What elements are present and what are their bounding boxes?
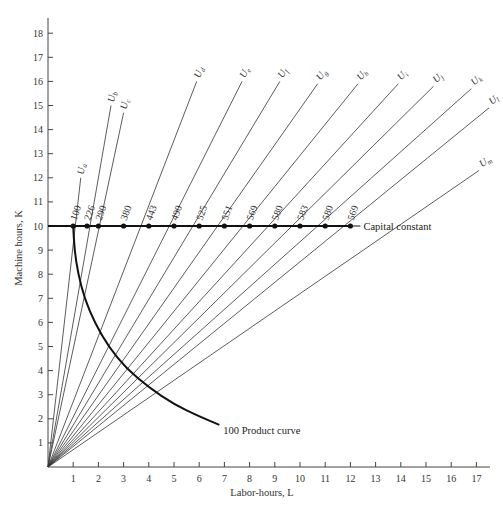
ray-line [48, 106, 111, 468]
y-tick-label: 17 [33, 52, 43, 63]
x-tick-label: 11 [320, 473, 330, 484]
x-tick-label: 3 [121, 473, 126, 484]
ray-line [48, 81, 197, 467]
x-tick-label: 6 [197, 473, 202, 484]
x-tick-label: 7 [222, 473, 227, 484]
ray-label: Uj [430, 70, 446, 86]
ray-line [48, 81, 280, 467]
output-label: 569 [345, 204, 360, 222]
x-tick-label: 2 [96, 473, 101, 484]
capital-constant-label: Capital constant [363, 221, 431, 232]
capital-point [272, 223, 277, 228]
y-tick-label: 15 [33, 100, 43, 111]
y-tick-label: 14 [33, 124, 43, 135]
ray-line [48, 89, 471, 467]
output-label: 380 [118, 204, 133, 222]
output-label: 569 [244, 204, 259, 222]
capital-point [146, 223, 151, 228]
y-tick-label: 4 [38, 365, 43, 376]
output-label: 490 [169, 204, 184, 222]
product-curve-label: 100 Product curve [223, 425, 300, 436]
ray-label: Uc [118, 97, 133, 111]
ray-label: Uk [468, 71, 485, 88]
y-tick-label: 8 [38, 269, 43, 280]
capital-point [171, 223, 176, 228]
output-label: 525 [194, 204, 209, 222]
x-tick-label: 1 [71, 473, 76, 484]
ray-label: Um [477, 153, 494, 171]
capital-point [222, 223, 227, 228]
ray-label: Ub [105, 90, 120, 103]
x-tick-label: 16 [446, 473, 456, 484]
x-tick-label: 15 [421, 473, 431, 484]
ray-label: Ue [237, 65, 253, 80]
x-tick-label: 17 [471, 473, 481, 484]
ray-label: Uf [275, 65, 291, 80]
y-tick-label: 13 [33, 148, 43, 159]
y-tick-label: 10 [33, 221, 43, 232]
ray-line [48, 86, 434, 467]
isoquant-chart: 1234567891011121314151617123456789101112… [0, 0, 503, 509]
capital-point [348, 223, 353, 228]
x-tick-label: 9 [272, 473, 277, 484]
y-tick-label: 16 [33, 76, 43, 87]
y-tick-label: 18 [33, 28, 43, 39]
x-tick-label: 5 [172, 473, 177, 484]
x-tick-label: 12 [345, 473, 355, 484]
ray-label: Ul [486, 92, 501, 108]
y-tick-label: 6 [38, 317, 43, 328]
y-tick-label: 12 [33, 172, 43, 183]
ray-line [48, 84, 358, 467]
output-label: 580 [320, 204, 335, 222]
x-tick-label: 4 [146, 473, 151, 484]
output-label: 580 [269, 204, 284, 222]
capital-point [297, 223, 302, 228]
ray-label: Ua [75, 163, 89, 176]
y-tick-label: 11 [33, 196, 43, 207]
y-tick-label: 2 [38, 413, 43, 424]
output-label: 551 [219, 204, 234, 222]
isoquant-curve [73, 226, 219, 425]
y-tick-label: 7 [38, 293, 43, 304]
capital-point [121, 223, 126, 228]
x-tick-label: 10 [295, 473, 305, 484]
output-label: 583 [295, 204, 310, 222]
capital-point [84, 223, 89, 228]
y-tick-label: 5 [38, 341, 43, 352]
output-label: 290 [93, 204, 108, 222]
ray-line [48, 84, 398, 467]
capital-point [96, 223, 101, 228]
expansion-rays: UaUbUcUdUeUfUgUhUiUjUkUlUm [48, 65, 502, 467]
x-tick-label: 14 [396, 473, 406, 484]
y-tick-label: 1 [38, 437, 43, 448]
output-label: 100 [68, 204, 83, 222]
ray-label: Ud [191, 65, 207, 80]
y-tick-label: 9 [38, 245, 43, 256]
capital-constant-line: Capital constant100226290380443490525551… [48, 204, 431, 232]
ray-line [48, 171, 479, 467]
x-tick-label: 8 [247, 473, 252, 484]
capital-point [197, 223, 202, 228]
ray-label: Ug [313, 66, 330, 83]
ray-line [48, 81, 242, 467]
product-curve: 100 Product curve [73, 226, 300, 436]
ray-label: Uh [354, 66, 371, 83]
x-axis-title: Labor-hours, L [230, 487, 293, 498]
capital-point [247, 223, 252, 228]
ray-line [48, 108, 489, 467]
output-label: 443 [143, 204, 158, 222]
ray-label: Ui [395, 68, 411, 84]
y-tick-label: 3 [38, 389, 43, 400]
x-tick-label: 13 [371, 473, 381, 484]
y-axis-title: Machine hours, K [13, 210, 24, 286]
capital-point [323, 223, 328, 228]
